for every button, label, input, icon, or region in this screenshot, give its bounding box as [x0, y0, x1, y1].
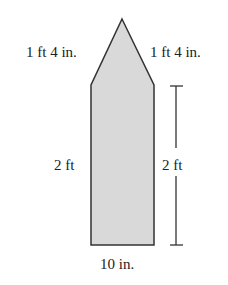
left-side-label: 2 ft	[54, 157, 75, 173]
pentagon-diagram: 1 ft 4 in. 1 ft 4 in. 2 ft 2 ft 10 in.	[0, 0, 228, 285]
right-slant-label: 1 ft 4 in.	[150, 44, 201, 60]
left-slant-label: 1 ft 4 in.	[26, 44, 77, 60]
pentagon-shape	[91, 19, 154, 245]
bottom-label: 10 in.	[100, 256, 134, 272]
right-dimension-label: 2 ft	[162, 157, 183, 173]
